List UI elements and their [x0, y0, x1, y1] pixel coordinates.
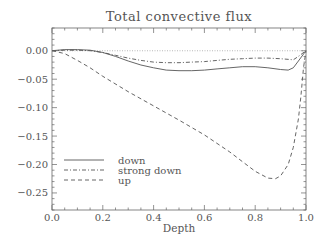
x-axis-label: Depth	[163, 222, 196, 234]
plot-frame	[52, 28, 306, 210]
y-tick-label: −0.05	[17, 74, 48, 85]
series-lines	[52, 50, 306, 179]
y-tick-label: −0.20	[17, 159, 48, 170]
x-tick-label: 0.0	[44, 212, 60, 223]
y-tick-label: −0.25	[17, 187, 48, 198]
x-tick-label: 0.2	[95, 212, 111, 223]
y-tick-label: −0.15	[17, 131, 48, 142]
x-tick-label: 0.6	[196, 212, 212, 223]
x-tick-label: 0.8	[247, 212, 263, 223]
legend: downstrong downup	[64, 155, 182, 186]
legend-label: up	[118, 175, 131, 186]
chart-title: Total convective flux	[106, 9, 252, 24]
series-line-strong-down	[52, 50, 306, 63]
y-tick-label: −0.10	[17, 102, 48, 113]
x-tick-label: 0.4	[146, 212, 162, 223]
chart: Total convective flux 0.00−0.05−0.10−0.1…	[0, 0, 328, 240]
x-tick-label: 1.0	[298, 212, 314, 223]
series-line-down	[52, 50, 306, 71]
y-tick-labels: 0.00−0.05−0.10−0.15−0.20−0.25	[17, 45, 48, 198]
axis-ticks	[52, 28, 306, 210]
y-tick-label: 0.00	[26, 45, 48, 56]
series-line-up	[52, 51, 306, 179]
